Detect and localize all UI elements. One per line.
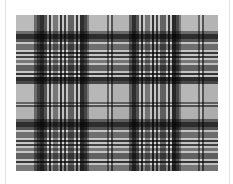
- horizontal-stripe: [16, 102, 218, 104]
- horizontal-stripe: [16, 161, 218, 163]
- horizontal-stripe: [16, 107, 218, 119]
- horizontal-stripe: [16, 65, 218, 71]
- horizontal-stripe: [16, 60, 218, 63]
- horizontal-stripe: [16, 153, 218, 159]
- horizontal-stripe: [16, 148, 218, 151]
- horizontal-stripe: [16, 165, 218, 171]
- horizontal-stripe: [16, 140, 218, 142]
- horizontal-stripe: [16, 127, 218, 130]
- horizontal-stripe: [16, 144, 218, 146]
- horizontal-stripe: [16, 56, 218, 58]
- horizontal-stripe: [16, 52, 218, 54]
- plaid-pattern-image: [16, 15, 218, 171]
- horizontal-stripe: [16, 132, 218, 138]
- horizontal-stripe: [16, 73, 218, 75]
- frame-left-border: [5, 0, 6, 184]
- horizontal-stripe: [16, 44, 218, 50]
- horizontal-stripe: [16, 39, 218, 42]
- horizontal-stripes-layer: [16, 15, 218, 171]
- frame-right-border: [229, 0, 230, 184]
- horizontal-stripe: [16, 15, 218, 31]
- horizontal-stripe: [16, 84, 218, 102]
